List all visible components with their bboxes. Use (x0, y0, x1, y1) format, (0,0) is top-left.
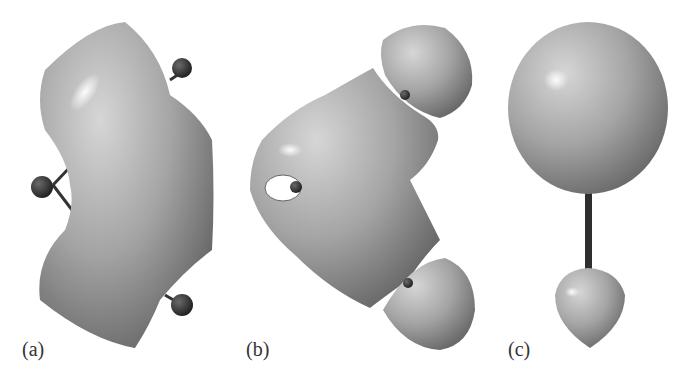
atom-icon (403, 278, 413, 288)
specular-highlight (565, 287, 579, 297)
panel-b-orbital (250, 25, 475, 350)
bond (53, 185, 72, 210)
atom-icon (400, 90, 410, 100)
specular-highlight (544, 69, 568, 91)
panel-label-a: (a) (22, 338, 44, 361)
large-lobe (508, 22, 668, 194)
panel-label-c: (c) (508, 338, 530, 361)
figure-canvas (0, 0, 684, 383)
atom-icon (290, 181, 302, 193)
bond (585, 190, 592, 270)
panel-a-orbital (31, 22, 214, 348)
small-lobe (555, 268, 625, 348)
panel-c-orbital (508, 22, 668, 348)
atom-icon (171, 294, 193, 316)
atom-icon (31, 176, 53, 198)
panel-label-b: (b) (246, 338, 269, 361)
atom-icon (172, 58, 192, 78)
specular-highlight (278, 143, 302, 157)
